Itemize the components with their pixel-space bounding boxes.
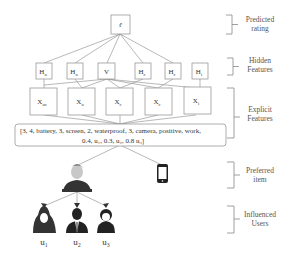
hidden-node-0: Hu [36, 63, 52, 79]
svg-text:Preferred: Preferred [246, 166, 274, 175]
recommendation-diagram: r̂ Hu Hu V Hc Hc Hi Xuc Xu Xc Xc [0, 0, 295, 259]
explicit-node-2: Xc [106, 88, 133, 115]
svg-text:Features: Features [247, 114, 272, 123]
user-label-u3: u₃ [102, 237, 110, 247]
layer-label-influenced-users: Influenced Users [227, 206, 276, 233]
edges-hidden-explicit [44, 79, 200, 88]
user-label-u1: u₁ [40, 237, 48, 247]
hidden-node-1: Hu [67, 63, 83, 79]
predicted-rating-node: r̂ [111, 15, 130, 34]
edges-user-influenced [41, 192, 109, 208]
edges-vector-preferred [78, 145, 162, 165]
edges-output-hidden [44, 34, 173, 63]
svg-text:Features: Features [247, 65, 272, 74]
svg-text:item: item [253, 175, 266, 184]
explicit-node-3: Xc [145, 88, 172, 115]
user-label-u2: u₂ [73, 237, 81, 247]
hidden-node-3: Hc [135, 63, 151, 79]
svg-text:V: V [104, 68, 109, 76]
layer-label-explicit-features: Explicit Features [227, 88, 273, 138]
smartphone-icon [157, 164, 168, 183]
influenced-user-2: u₂ [66, 208, 88, 247]
svg-text:rating: rating [251, 24, 269, 33]
explicit-node-1: Xu [68, 88, 95, 115]
svg-text:Hidden: Hidden [249, 56, 271, 65]
influenced-user-3: u₃ [97, 209, 115, 247]
explicit-node-4: Xi [184, 87, 211, 114]
layer-label-preferred-item: Preferred item [227, 162, 274, 188]
feature-vector-line1: [3, 4, battery, 3, screen, 2, waterproof… [20, 127, 201, 135]
edges-explicit-vector [44, 115, 196, 124]
svg-text:Users: Users [251, 219, 268, 228]
feature-vector: [3, 4, battery, 3, screen, 2, waterproof… [15, 124, 226, 146]
user-avatar-icon [62, 164, 92, 192]
layer-label-predicted-rating: Predicted rating [226, 15, 274, 34]
svg-text:Explicit: Explicit [248, 105, 273, 114]
layer-label-hidden-features: Hidden Features [227, 56, 273, 75]
hidden-node-2: V [98, 63, 115, 79]
svg-text:Predicted: Predicted [246, 15, 275, 24]
influenced-user-1: u₁ [33, 206, 56, 247]
hidden-node-5: Hi [192, 63, 208, 79]
explicit-node-0: Xuc [30, 88, 57, 115]
feature-vector-line2: 0.4, u₁, 0.3, u₂, 0.8 u₃] [82, 137, 144, 145]
hidden-node-4: Hc [165, 63, 181, 79]
svg-text:Influenced: Influenced [244, 210, 276, 219]
